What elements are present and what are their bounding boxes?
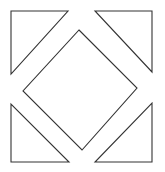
geometric-figure-canvas: [0, 0, 165, 172]
